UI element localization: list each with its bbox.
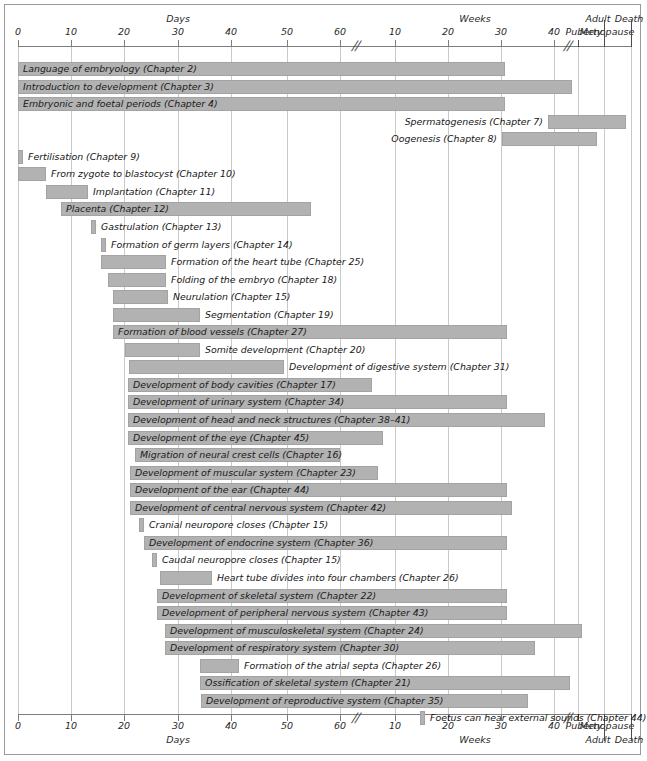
timeline-bar-label: Formation of the heart tube (Chapter 25) — [171, 255, 364, 269]
tick-top-10-7 — [395, 40, 396, 47]
axis-separator-4 — [631, 20, 632, 47]
axis-separator-0 — [578, 40, 579, 47]
timeline-bar-label: Development of digestive system (Chapter… — [289, 360, 509, 374]
tick-top-20-8 — [448, 40, 449, 47]
stage-label-top-adult: Adult — [586, 13, 611, 24]
tick-top-0-0 — [18, 40, 19, 47]
gridline-11 — [578, 46, 579, 714]
timeline-bar[interactable] — [139, 518, 144, 532]
axis-unit-days-top: Days — [166, 13, 190, 24]
timeline-bar-label: Introduction to development (Chapter 3) — [23, 80, 214, 94]
timeline-bar-label: Spermatogenesis (Chapter 7) — [405, 115, 543, 129]
timeline-bar[interactable] — [200, 659, 239, 673]
axis-unit-weeks-bottom: Weeks — [459, 734, 491, 745]
axis-line-top — [18, 46, 632, 47]
tick-label-top-8: 20 — [442, 26, 454, 37]
timeline-bar[interactable] — [152, 553, 157, 567]
tick-label-top-5: 50 — [281, 26, 293, 37]
timeline-bar[interactable] — [46, 185, 88, 199]
tick-label-bottom-0: 0 — [15, 720, 21, 731]
tick-label-top-10: 40 — [548, 26, 560, 37]
tick-top-40-10 — [554, 40, 555, 47]
tick-top-50-5 — [287, 40, 288, 47]
tick-top-30-9 — [501, 40, 502, 47]
timeline-bar-label: Development of central nervous system (C… — [135, 501, 386, 515]
timeline-bar[interactable] — [113, 308, 200, 322]
timeline-bar-label: Caudal neuropore closes (Chapter 15) — [162, 553, 341, 567]
axis-separator-2 — [604, 20, 605, 47]
timeline-bar[interactable] — [129, 360, 284, 374]
timeline-bar[interactable] — [420, 711, 425, 725]
timeline-bar-label: Development of urinary system (Chapter 3… — [133, 395, 344, 409]
tick-label-top-1: 10 — [65, 26, 77, 37]
timeline-bar-label: Segmentation (Chapter 19) — [205, 308, 334, 322]
timeline-bar-label: Development of head and neck structures … — [133, 413, 410, 427]
timeline-bar-label: Somite development (Chapter 20) — [205, 343, 365, 357]
timeline-bar[interactable] — [18, 167, 46, 181]
tick-label-top-7: 10 — [389, 26, 401, 37]
tick-label-bottom-1: 10 — [65, 720, 77, 731]
timeline-bar[interactable] — [18, 150, 23, 164]
timeline-bar[interactable] — [502, 132, 597, 146]
gridline-1 — [71, 46, 72, 714]
timeline-bar-label: Formation of the atrial septa (Chapter 2… — [244, 659, 441, 673]
timeline-bar[interactable] — [108, 273, 166, 287]
timeline-bar-label: Development of respiratory system (Chapt… — [170, 641, 399, 655]
axis-break-bottom-0: // — [350, 710, 362, 725]
timeline-bar-label: Development of body cavities (Chapter 17… — [133, 378, 336, 392]
tick-label-top-9: 30 — [495, 26, 507, 37]
timeline-bar-label: Heart tube divides into four chambers (C… — [217, 571, 459, 585]
plot-area: 0010102020303040405050606010102020303040… — [0, 0, 647, 761]
tick-label-bottom-3: 30 — [172, 720, 184, 731]
tick-label-bottom-6: 60 — [334, 720, 346, 731]
tick-label-top-6: 60 — [334, 26, 346, 37]
timeline-bar-label: Development of the eye (Chapter 45) — [133, 431, 309, 445]
axis-unit-days-bottom: Days — [166, 734, 190, 745]
tick-label-top-2: 20 — [118, 26, 130, 37]
tick-label-top-4: 40 — [225, 26, 237, 37]
gridline-12 — [604, 46, 605, 714]
timeline-bar[interactable] — [548, 115, 626, 129]
timeline-bar-label: Placenta (Chapter 12) — [66, 202, 169, 216]
timeline-bar-label: Development of muscular system (Chapter … — [135, 466, 356, 480]
timeline-bar-label: Implantation (Chapter 11) — [93, 185, 215, 199]
stage-label-bottom-death: Death — [615, 734, 644, 745]
tick-top-20-2 — [124, 40, 125, 47]
timeline-bar-label: Formation of blood vessels (Chapter 27) — [118, 325, 307, 339]
gridline-2 — [124, 46, 125, 714]
timeline-bar[interactable] — [113, 290, 168, 304]
timeline-bar[interactable] — [160, 571, 212, 585]
timeline-bar-label: Folding of the embryo (Chapter 18) — [171, 273, 337, 287]
gridline-13 — [631, 46, 632, 714]
timeline-bar-label: Neurulation (Chapter 15) — [173, 290, 291, 304]
stage-label-top-menopause: Menopause — [580, 26, 635, 37]
tick-label-bottom-7: 10 — [389, 720, 401, 731]
timeline-bar-label: Migration of neural crest cells (Chapter… — [140, 448, 342, 462]
timeline-bar-label: Cranial neuropore closes (Chapter 15) — [149, 518, 328, 532]
stage-label-top-death: Death — [615, 13, 644, 24]
timeline-bar[interactable] — [101, 255, 166, 269]
timeline-figure: 0010102020303040405050606010102020303040… — [0, 0, 647, 761]
timeline-bar-label: Development of the ear (Chapter 44) — [135, 483, 310, 497]
timeline-bar-label: Language of embryology (Chapter 2) — [23, 62, 197, 76]
timeline-bar-label: Development of musculoskeletal system (C… — [170, 624, 424, 638]
timeline-bar[interactable] — [125, 343, 200, 357]
timeline-bar-label: Formation of germ layers (Chapter 14) — [111, 238, 293, 252]
timeline-bar-label: Development of skeletal system (Chapter … — [162, 589, 376, 603]
tick-label-bottom-4: 40 — [225, 720, 237, 731]
timeline-bar-label: Oogenesis (Chapter 8) — [391, 132, 497, 146]
timeline-bar-label: Foetus can hear external sounds (Chapter… — [430, 711, 646, 725]
tick-top-60-6 — [340, 40, 341, 47]
tick-label-bottom-2: 20 — [118, 720, 130, 731]
timeline-bar-label: Gastrulation (Chapter 13) — [101, 220, 221, 234]
gridline-0 — [18, 46, 19, 714]
tick-top-10-1 — [71, 40, 72, 47]
timeline-bar-label: Development of endocrine system (Chapter… — [149, 536, 373, 550]
timeline-bar-label: Ossification of skeletal system (Chapter… — [205, 676, 411, 690]
tick-top-30-3 — [178, 40, 179, 47]
stage-label-bottom-adult: Adult — [586, 734, 611, 745]
timeline-bar[interactable] — [91, 220, 96, 234]
timeline-bar[interactable] — [101, 238, 106, 252]
tick-label-top-0: 0 — [15, 26, 21, 37]
timeline-bar-label: From zygote to blastocyst (Chapter 10) — [51, 167, 236, 181]
